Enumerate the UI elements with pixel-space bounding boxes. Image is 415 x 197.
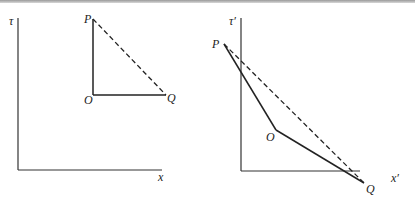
left-point-Q: Q [167, 91, 176, 105]
right-x-label: x′ [390, 171, 399, 185]
left-x-label: x [157, 170, 164, 184]
right-point-O: O [266, 130, 275, 144]
right-point-Q: Q [366, 182, 375, 196]
right-segment-PQ-dashed [224, 44, 364, 183]
right-tau-label: τ′ [229, 14, 236, 28]
right-point-P: P [211, 37, 220, 51]
left-tau-label: τ [9, 14, 14, 28]
left-segment-PQ-dashed [93, 19, 166, 95]
right-segment-PO [224, 44, 276, 130]
left-diagram: τ x P O Q [9, 12, 176, 184]
spacetime-diagram: τ x P O Q τ′ x′ P O Q [0, 0, 415, 197]
left-point-O: O [84, 93, 93, 107]
right-segment-OQ [276, 130, 364, 183]
left-point-P: P [83, 12, 92, 26]
right-diagram: τ′ x′ P O Q [211, 14, 399, 196]
